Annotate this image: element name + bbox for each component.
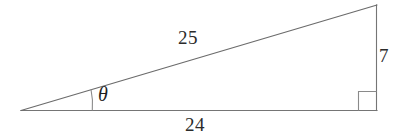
theta-angle-label: θ	[98, 84, 108, 104]
right-angle-marker-icon	[359, 92, 377, 111]
triangle-hypotenuse-line	[21, 5, 377, 111]
angle-arc-icon	[91, 90, 93, 111]
hypotenuse-label: 25	[178, 28, 198, 47]
opposite-side-label: 7	[379, 46, 389, 65]
base-label: 24	[185, 115, 205, 134]
triangle-figure: 25 24 7 θ	[0, 0, 398, 138]
